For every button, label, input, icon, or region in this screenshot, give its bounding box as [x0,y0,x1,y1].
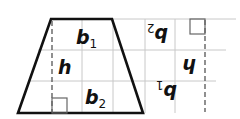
rotated-label-b2: b2 [147,21,168,46]
trapezoid: b1 h b2 [18,19,143,113]
rotated-label-h: h [182,55,196,77]
label-b1: b1 [76,26,97,51]
rotated-right-angle-marker [190,19,205,34]
label-b2: b2 [85,86,106,111]
rotated-trapezoid: b2 h b1 [147,19,205,112]
right-angle-marker [52,98,67,113]
label-h: h [58,56,72,78]
trapezoid-area-diagram: b1 h b2 b2 h b1 [0,0,240,119]
rotated-label-b1: b1 [156,78,177,103]
